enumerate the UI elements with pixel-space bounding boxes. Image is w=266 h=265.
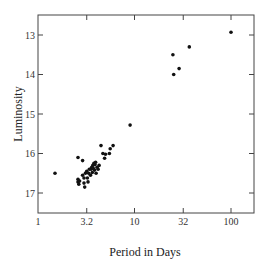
data-points <box>53 30 233 189</box>
data-point <box>108 147 112 151</box>
data-point <box>86 180 90 184</box>
data-point <box>82 181 86 185</box>
data-point <box>111 144 115 148</box>
data-point <box>93 168 97 172</box>
x-tick-label: 32 <box>178 216 188 227</box>
scatter-chart: 1314151617 13.21032100 Luminosity Period… <box>0 0 266 265</box>
x-tick-label: 3.2 <box>80 216 93 227</box>
y-tick-label: 15 <box>25 109 35 120</box>
y-axis-ticks: 1314151617 <box>25 30 254 199</box>
y-tick-label: 14 <box>25 69 35 80</box>
data-point <box>128 123 132 127</box>
data-point <box>171 53 175 57</box>
y-tick-label: 16 <box>25 148 35 159</box>
data-point <box>83 185 87 189</box>
x-axis-ticks: 13.21032100 <box>36 15 239 227</box>
data-point <box>86 176 90 180</box>
data-point <box>94 172 98 176</box>
data-point <box>97 164 101 168</box>
data-point <box>94 160 98 164</box>
data-point <box>229 30 233 34</box>
data-point <box>81 159 85 163</box>
data-point <box>82 176 86 180</box>
data-point <box>76 156 80 160</box>
y-tick-label: 17 <box>25 188 35 199</box>
data-point <box>77 183 81 187</box>
data-point <box>108 152 112 156</box>
data-point <box>99 144 103 148</box>
y-axis-title: Luminosity <box>11 86 25 141</box>
x-tick-label: 100 <box>224 216 239 227</box>
data-point <box>188 45 192 49</box>
data-point <box>96 168 100 172</box>
x-tick-label: 10 <box>130 216 140 227</box>
data-point <box>177 67 181 71</box>
data-point <box>53 172 57 176</box>
data-point <box>172 73 176 77</box>
data-point <box>103 156 107 160</box>
y-tick-label: 13 <box>25 30 35 41</box>
x-axis-title: Period in Days <box>109 245 181 259</box>
plot-frame <box>38 15 254 213</box>
data-point <box>104 153 108 157</box>
x-tick-label: 1 <box>36 216 41 227</box>
data-point <box>78 179 82 183</box>
